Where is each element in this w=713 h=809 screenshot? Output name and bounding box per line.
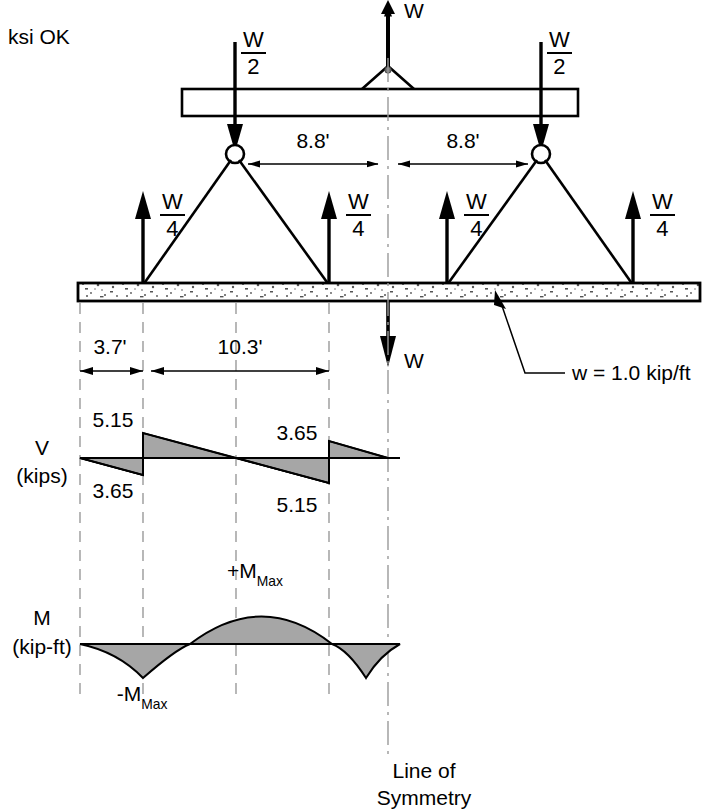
moment-positive-peak-subscript: Max [257, 573, 283, 589]
quarter-load-arrow-2 [321, 191, 337, 285]
moment-negative-peak-label: -MMax [117, 683, 168, 709]
dimension-label-spreader-right: 8.8' [446, 130, 479, 151]
quarter-load-label-3: W 4 [464, 190, 489, 240]
shackle-right [532, 145, 550, 163]
hook-load-arrow [381, 0, 395, 68]
quarter-load-denominator-3: 4 [464, 216, 489, 240]
quarter-load-label-2: W 4 [346, 190, 371, 240]
shear-diagram [80, 433, 400, 483]
dimension-label-spreader-left: 8.8' [296, 130, 329, 151]
moment-negative-peak-prefix: -M [117, 682, 142, 705]
span-dimension-line [151, 367, 329, 375]
dimension-label-overhang: 3.7' [93, 336, 126, 357]
overhang-dimension-line [80, 367, 143, 375]
quarter-load-denominator-2: 4 [346, 216, 371, 240]
moment-axis-label-line1: M [33, 607, 51, 628]
half-load-label-left: W 2 [241, 28, 266, 78]
quarter-load-arrow-3 [439, 191, 455, 285]
moment-positive-peak-label: +MMax [227, 560, 283, 586]
quarter-load-numerator-3: W [464, 190, 489, 216]
quarter-load-label-4: W 4 [650, 190, 675, 240]
udl-label: w = 1.0 kip/ft [572, 362, 690, 383]
quarter-load-arrow-1 [135, 191, 151, 285]
quarter-load-label-1: W 4 [160, 190, 185, 240]
shear-value-left-top: 5.15 [93, 409, 134, 430]
spreader-beam [182, 89, 578, 116]
symmetry-label-line2: Symmetry [377, 787, 472, 808]
moment-negative-peak-subscript: Max [141, 696, 167, 712]
quarter-load-arrow-4 [625, 191, 641, 285]
quarter-load-numerator-2: W [346, 190, 371, 216]
moment-positive-peak-prefix: +M [227, 559, 257, 582]
structural-diagram-svg [0, 0, 713, 809]
half-load-denominator-right: 2 [547, 54, 572, 78]
half-load-numerator-right: W [547, 28, 572, 54]
shear-value-right-bottom: 5.15 [277, 494, 318, 515]
dimension-label-span: 10.3' [218, 336, 263, 357]
shear-value-right-top: 3.65 [277, 422, 318, 443]
half-load-label-right: W 2 [547, 28, 572, 78]
hook-load-label: W [404, 0, 424, 21]
diagram-page: ksi OK W W 2 W 2 8.8' 8.8' W 4 W 4 W 4 W… [0, 0, 713, 809]
moment-axis-label-line2: (kip-ft) [12, 636, 72, 657]
half-load-numerator-left: W [241, 28, 266, 54]
half-load-denominator-left: 2 [241, 54, 266, 78]
shackle-left [226, 145, 244, 163]
concrete-slab [78, 283, 700, 301]
quarter-load-denominator-4: 4 [650, 216, 675, 240]
symmetry-label-line1: Line of [392, 760, 455, 781]
shear-axis-label-line2: (kips) [16, 465, 67, 486]
total-weight-label: W [404, 350, 424, 371]
udl-leader-line [494, 290, 565, 373]
quarter-load-denominator-1: 4 [160, 216, 185, 240]
quarter-load-numerator-4: W [650, 190, 675, 216]
moment-diagram [80, 617, 400, 679]
shear-axis-label-line1: V [35, 437, 49, 458]
note-text: ksi OK [8, 26, 70, 47]
shear-value-left-bottom: 3.65 [93, 480, 134, 501]
quarter-load-numerator-1: W [160, 190, 185, 216]
